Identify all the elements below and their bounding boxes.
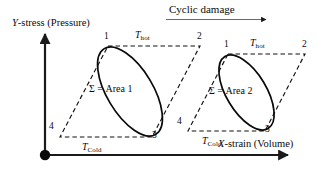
cycle-2-corner-2: 2: [302, 40, 307, 50]
cycle-1-area-label: Σ = Area 1: [89, 84, 132, 94]
cycle-1-t-cold-subscript: Cold: [88, 146, 102, 154]
cycle-2-t-cold-subscript: Cold: [208, 140, 222, 148]
x-axis-label-text: -strain (Volume): [224, 138, 293, 149]
cycle-2-area-label: Σ = Area 2: [209, 86, 252, 96]
cycle-1-corner-3: 3: [152, 131, 157, 141]
x-axis-label: X-strain (Volume): [218, 139, 293, 150]
y-axis-label: Y-stress (Pressure): [12, 18, 90, 29]
cycle-1-corner-4: 4: [49, 122, 54, 132]
cyclic-damage-title: Cyclic damage: [169, 4, 235, 15]
origin-dot: [40, 150, 50, 160]
cyclic-damage-diagram: Cyclic damage Y-stress (Pressure) X-stra…: [0, 0, 327, 171]
y-axis-label-text: -stress (Pressure): [18, 17, 90, 28]
cycle-2-corner-1: 1: [224, 40, 229, 50]
cycle-2-t-hot-subscript: hot: [256, 42, 265, 50]
cycle-1-t-hot-subscript: hot: [141, 34, 150, 42]
cycle-2-t-cold-label: TCold: [202, 136, 222, 148]
cycle-2-t-hot-label: Thot: [250, 38, 265, 50]
cycle-1-t-hot-label: Thot: [135, 30, 150, 42]
cycle-1-corner-2: 2: [197, 32, 202, 42]
cycle-2-corner-4: 4: [177, 117, 182, 127]
cycle-1-t-cold-label: TCold: [82, 142, 102, 154]
cycle-1-corner-1: 1: [104, 32, 109, 42]
cycle-2-corner-3: 3: [265, 125, 270, 135]
